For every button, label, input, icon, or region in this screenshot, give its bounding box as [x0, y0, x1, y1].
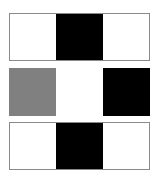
cell-black — [56, 123, 102, 169]
cell-white — [10, 14, 56, 60]
cell-white — [10, 123, 56, 169]
cell-black — [56, 14, 102, 60]
cell-white — [103, 123, 149, 169]
pattern-row-1 — [9, 13, 150, 61]
pattern-row-2 — [9, 68, 150, 116]
cell-white — [56, 68, 103, 116]
cell-gray — [9, 68, 56, 116]
cell-black — [103, 68, 150, 116]
cell-white — [103, 14, 149, 60]
pattern-row-3 — [9, 122, 150, 170]
